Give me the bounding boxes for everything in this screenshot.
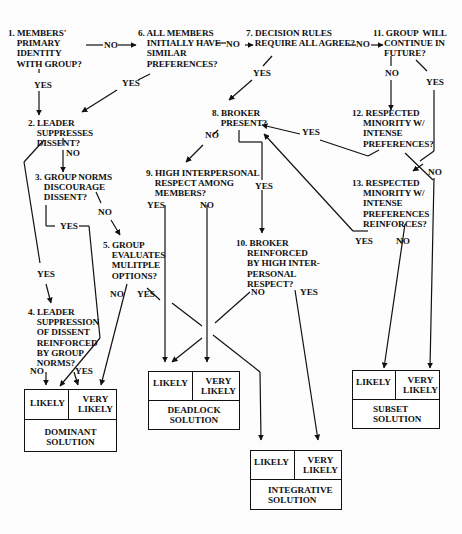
dominant-label: DOMINANT SOLUTION: [25, 427, 116, 447]
node-8-broker-present: 8. BROKER PRESENT?: [212, 108, 267, 128]
node-3-group-norms: 3. GROUP NORMS DISCOURAGE DISSENT?: [35, 172, 112, 203]
edge-3-5-no: NO: [98, 207, 112, 217]
edge-7-11-no: NO: [356, 39, 370, 49]
edge-2-4-yes: YES: [37, 269, 55, 279]
edge-13-8-yes: YES: [355, 236, 373, 246]
edge-4-yes: YES: [75, 366, 93, 376]
node-11-group-continue: 11. GROUP WILL CONTINUE IN FUTURE?: [373, 28, 447, 59]
node-7-decision-rules: 7. DECISION RULES REQUIRE ALL AGREE?: [246, 28, 355, 48]
edge-10-yes: YES: [300, 287, 318, 297]
edge-5-no: NO: [110, 289, 124, 299]
edge-11-yes: YES: [426, 77, 444, 87]
edge-9-yes: YES: [147, 200, 165, 210]
decision-flowchart: 1. MEMBERS' PRIMARY IDENTITY WITH GROUP?…: [0, 0, 462, 534]
dominant-likely: LIKELY: [30, 398, 65, 408]
deadlock-label: DEADLOCK SOLUTION: [149, 405, 239, 425]
edge-9-no: NO: [200, 200, 214, 210]
node-6-similar-preferences: 6. ALL MEMBERS INITIALLY HAVE SIMILAR PR…: [138, 28, 221, 69]
edge-8-10-yes: YES: [255, 181, 273, 191]
edge-8-9-no: NO: [205, 130, 219, 140]
edge-13-no: NO: [396, 236, 410, 246]
subset-likely: LIKELY: [356, 377, 391, 387]
deadlock-very-likely: VERY LIKELY: [201, 376, 236, 396]
outcome-deadlock-solution: LIKELY VERY LIKELY DEADLOCK SOLUTION: [148, 371, 240, 430]
edge-6-2-yes: YES: [122, 78, 140, 88]
edge-4-no: NO: [30, 366, 44, 376]
integrative-likely: LIKELY: [254, 457, 289, 467]
edge-10-no: NO: [251, 287, 265, 297]
node-5-group-evaluates: 5. GROUP EVALUATES MULITPLE OPTIONS?: [103, 240, 165, 281]
edge-12-13-no: NO: [428, 167, 442, 177]
outcome-dominant-solution: LIKELY VERY LIKELY DOMINANT SOLUTION: [24, 389, 117, 452]
edge-7-8-yes: YES: [253, 68, 271, 78]
node-1-members-identity: 1. MEMBERS' PRIMARY IDENTITY WITH GROUP?: [8, 28, 82, 69]
outcome-subset-solution: LIKELY VERY LIKELY SUBSET SOLUTION: [352, 370, 440, 429]
node-10-broker-reinforced: 10. BROKER REINFORCED BY HIGH INTER- PER…: [236, 238, 320, 289]
edge-1-6-no: NO: [104, 40, 118, 50]
edge-6-7-no: NO: [226, 39, 240, 49]
node-9-interpersonal-respect: 9. HIGH INTERPERSONAL RESPECT AMONG MEMB…: [146, 168, 260, 199]
edge-12-8-yes: YES: [302, 127, 320, 137]
connector-lines: [0, 0, 462, 534]
integrative-label: INTEGRATIVE SOLUTION: [268, 485, 333, 505]
edge-2-3-no: NO: [66, 148, 80, 158]
edge-5-yes: YES: [137, 289, 155, 299]
node-13-minority-reinforces: 13. RESPECTED MINORITY W/ INTENSE PREFER…: [352, 178, 429, 229]
outcome-integrative-solution: LIKELY VERY LIKELY INTEGRATIVE SOLUTION: [250, 450, 342, 510]
deadlock-likely: LIKELY: [153, 378, 188, 388]
integrative-very-likely: VERY LIKELY: [303, 455, 338, 475]
node-12-respected-minority: 12. RESPECTED MINORITY W/ INTENSE PREFER…: [352, 108, 434, 149]
edge-3-yes: YES: [60, 221, 78, 231]
dominant-very-likely: VERY LIKELY: [78, 394, 113, 414]
node-4-leader-suppression-reinforced: 4. LEADER SUPPRESSION OF DISSENT REINFOR…: [28, 307, 99, 368]
subset-label: SUBSET SOLUTION: [373, 404, 422, 424]
edge-11-12-no: NO: [385, 68, 399, 78]
node-2-leader-suppresses: 2. LEADER SUPPRESSES DISSENT?: [28, 118, 93, 149]
subset-very-likely: VERY LIKELY: [403, 375, 438, 395]
edge-1-2-yes: YES: [34, 80, 52, 90]
